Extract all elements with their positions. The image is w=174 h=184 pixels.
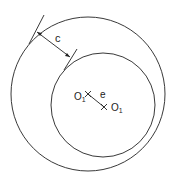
clearance-label: c xyxy=(55,32,61,44)
eccentricity-label: e xyxy=(100,89,106,100)
clearance-dimension-line xyxy=(37,32,70,57)
inner-tangent-line xyxy=(64,49,77,70)
center-label-2: O1 xyxy=(111,102,123,114)
inner-circle xyxy=(51,53,155,157)
outer-tangent-line xyxy=(29,15,44,44)
eccentric-circles-diagram: c e O1 O1 xyxy=(0,0,174,184)
center-label-1: O1 xyxy=(74,91,86,103)
